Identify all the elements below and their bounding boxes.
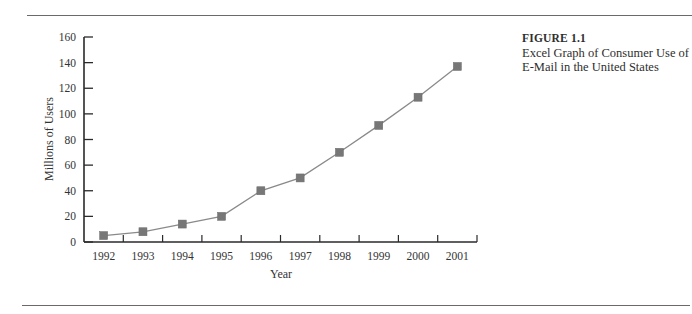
figure-caption-line-1: Excel Graph of Consumer Use of: [522, 46, 692, 61]
data-point-marker: [100, 232, 108, 240]
data-point-marker: [414, 93, 422, 101]
y-tick-label: 20: [65, 210, 77, 222]
figure-caption: FIGURE 1.1 Excel Graph of Consumer Use o…: [522, 31, 692, 75]
x-tick-label: 1992: [92, 250, 115, 262]
figure-number: FIGURE 1.1: [522, 31, 692, 46]
data-point-marker: [218, 212, 226, 220]
y-tick-label: 100: [59, 108, 77, 120]
y-tick-labels: 020406080100120140160: [59, 31, 77, 248]
x-axis-title: Year: [270, 267, 292, 281]
data-point-marker: [296, 174, 304, 182]
y-tick-label: 0: [70, 236, 76, 248]
y-tick-label: 60: [65, 159, 77, 171]
x-axis-ticks: [123, 235, 477, 242]
y-tick-label: 80: [65, 134, 77, 146]
x-tick-label: 2000: [407, 250, 430, 262]
data-point-marker: [453, 62, 461, 70]
y-axis-title: Millions of Users: [42, 97, 56, 181]
x-tick-label: 1998: [328, 250, 351, 262]
x-tick-label: 2001: [446, 250, 469, 262]
series-line: [104, 67, 458, 236]
data-markers: [100, 62, 462, 239]
figure-caption-line-2: E-Mail in the United States: [522, 60, 692, 75]
data-point-marker: [375, 121, 383, 129]
y-tick-label: 160: [59, 31, 77, 43]
y-tick-label: 120: [59, 82, 77, 94]
y-axis-ticks: [84, 37, 93, 242]
x-tick-labels: 1992199319941995199619971998199920002001: [92, 250, 469, 262]
y-tick-label: 140: [59, 57, 77, 69]
x-tick-label: 1995: [210, 250, 233, 262]
data-point-marker: [335, 148, 343, 156]
data-point-marker: [139, 228, 147, 236]
x-tick-label: 1999: [367, 250, 390, 262]
x-tick-label: 1993: [131, 250, 154, 262]
x-tick-label: 1996: [249, 250, 272, 262]
y-tick-label: 40: [65, 185, 77, 197]
data-point-marker: [257, 187, 265, 195]
x-tick-label: 1994: [171, 250, 194, 262]
data-point-marker: [178, 220, 186, 228]
x-tick-label: 1997: [289, 250, 312, 262]
